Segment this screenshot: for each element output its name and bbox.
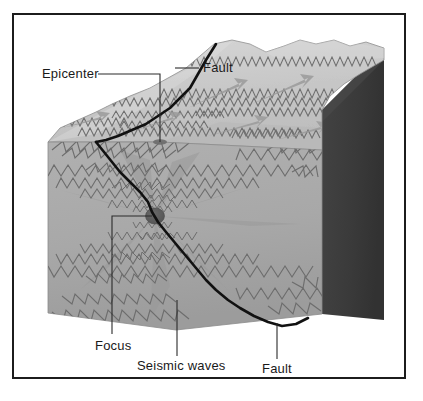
earthquake-block-diagram: Fault Epicenter Focus Seismic waves Faul… xyxy=(0,0,423,401)
label-focus: Focus xyxy=(95,338,132,353)
figure-page: Fault Epicenter Focus Seismic waves Faul… xyxy=(0,0,423,401)
label-epicenter: Epicenter xyxy=(42,66,99,81)
label-fault-bottom: Fault xyxy=(262,361,292,376)
label-seismic-waves: Seismic waves xyxy=(137,358,226,373)
label-fault-top: Fault xyxy=(203,60,233,75)
